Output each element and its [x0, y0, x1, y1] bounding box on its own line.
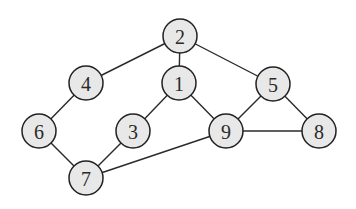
node-5: 5: [256, 67, 290, 101]
edges-layer: [39, 36, 319, 178]
node-label: 4: [81, 73, 91, 95]
node-4: 4: [69, 66, 103, 100]
node-3: 3: [116, 114, 150, 148]
node-label: 1: [174, 73, 184, 95]
edge-9-7: [86, 131, 226, 178]
nodes-layer: 241563987: [22, 19, 336, 195]
node-label: 2: [175, 26, 185, 48]
node-9: 9: [209, 114, 243, 148]
node-8: 8: [302, 114, 336, 148]
node-label: 3: [128, 121, 138, 143]
node-label: 5: [268, 74, 278, 96]
node-label: 7: [81, 168, 91, 190]
node-label: 9: [221, 121, 231, 143]
node-1: 1: [162, 66, 196, 100]
graph-diagram: 241563987: [0, 0, 356, 209]
node-6: 6: [22, 114, 56, 148]
node-label: 8: [314, 121, 324, 143]
node-label: 6: [34, 121, 44, 143]
node-2: 2: [163, 19, 197, 53]
node-7: 7: [69, 161, 103, 195]
